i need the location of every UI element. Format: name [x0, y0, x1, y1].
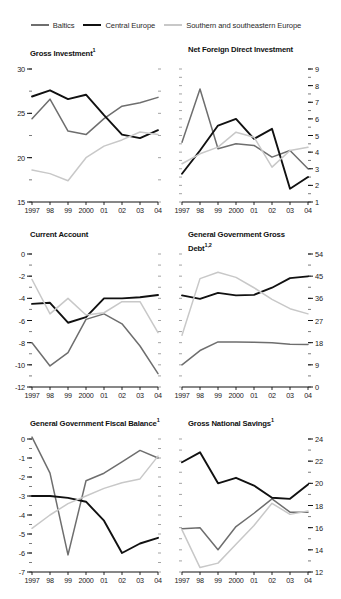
x-axis-tick-label: 03 — [136, 391, 144, 400]
x-axis-tick-label: 01 — [250, 391, 258, 400]
x-axis-tick-label: 03 — [136, 576, 144, 585]
x-axis-tick-label: 98 — [196, 206, 204, 215]
chart-panel-grid: Gross Investment115202530199798992000010… — [0, 42, 341, 599]
y-axis-tick-label: 54 — [315, 250, 323, 259]
y-axis-tick-label: 9 — [315, 65, 319, 74]
y-axis-tick-label: 9 — [315, 360, 319, 369]
y-axis-tick-label: 0 — [6, 250, 25, 259]
y-axis-tick-label: 3 — [315, 164, 319, 173]
legend-item-southern-southeastern-europe: Southern and southeastern Europe — [164, 21, 301, 30]
x-axis-tick-label: 03 — [286, 576, 294, 585]
y-axis-tick-label: -5 — [6, 530, 25, 539]
series-line — [182, 272, 308, 335]
y-axis-tick-label: 0 — [315, 383, 319, 392]
y-axis-tick-label: 25 — [6, 109, 25, 118]
x-axis-tick-label: 99 — [64, 576, 72, 585]
x-axis-tick-label: 2000 — [78, 391, 93, 400]
series-line — [32, 314, 158, 374]
x-axis-tick-label: 99 — [64, 391, 72, 400]
x-axis-tick-label: 98 — [46, 576, 54, 585]
legend-swatch-central-europe — [83, 24, 101, 26]
x-axis-tick-label: 99 — [214, 576, 222, 585]
y-axis-tick-label: -3 — [6, 492, 25, 501]
y-axis-tick-label: -6 — [6, 316, 25, 325]
y-axis-tick-label: 2 — [315, 181, 319, 190]
x-axis-tick-label: 98 — [196, 576, 204, 585]
x-axis-tick-label: 02 — [268, 391, 276, 400]
y-axis-tick-label: 27 — [315, 316, 323, 325]
series-line — [182, 342, 308, 365]
panel-net-foreign-direct-investment: Net Foreign Direct Investment12345678919… — [176, 47, 336, 227]
x-axis-tick-label: 03 — [286, 391, 294, 400]
x-axis-tick-label: 2000 — [228, 576, 243, 585]
x-axis-tick-label: 99 — [214, 206, 222, 215]
x-axis-tick-label: 98 — [46, 391, 54, 400]
y-axis-tick-label: 6 — [315, 114, 319, 123]
panel-plot-area — [6, 232, 166, 412]
x-axis-tick-label: 03 — [286, 206, 294, 215]
x-axis-tick-label: 98 — [46, 206, 54, 215]
x-axis-tick-label: 2000 — [78, 576, 93, 585]
panel-plot-area — [176, 47, 336, 227]
series-line — [32, 279, 158, 332]
y-axis-tick-label: 1 — [315, 198, 319, 207]
y-axis-tick-label: 45 — [315, 272, 323, 281]
y-axis-tick-label: -12 — [6, 383, 25, 392]
legend-swatch-southern-southeastern-europe — [164, 24, 182, 26]
x-axis-tick-label: 04 — [304, 576, 312, 585]
y-axis-tick-label: 20 — [315, 479, 323, 488]
y-axis-tick-label: -1 — [6, 454, 25, 463]
y-axis-tick-label: 18 — [315, 501, 323, 510]
y-axis-tick-label: 18 — [315, 338, 323, 347]
legend-label-baltics: Baltics — [53, 21, 75, 30]
chart-legend: Baltics Central Europe Southern and sout… — [0, 14, 341, 36]
x-axis-tick-label: 2000 — [228, 206, 243, 215]
x-axis-tick-label: 2000 — [78, 206, 93, 215]
panel-gross-national-savings: Gross National Savings112141618202224199… — [176, 417, 336, 597]
y-axis-tick-label: 36 — [315, 294, 323, 303]
panel-plot-area — [176, 232, 336, 412]
panel-plot-area — [6, 47, 166, 227]
x-axis-tick-label: 02 — [118, 576, 126, 585]
y-axis-tick-label: -2 — [6, 272, 25, 281]
legend-swatch-baltics — [31, 24, 49, 26]
x-axis-tick-label: 02 — [118, 206, 126, 215]
x-axis-tick-label: 04 — [304, 206, 312, 215]
x-axis-tick-label: 99 — [214, 391, 222, 400]
y-axis-tick-label: 4 — [315, 148, 319, 157]
panel-plot-area — [176, 417, 336, 597]
y-axis-tick-label: 22 — [315, 457, 323, 466]
series-line — [32, 90, 158, 138]
x-axis-tick-label: 1997 — [24, 206, 39, 215]
y-axis-tick-label: 16 — [315, 523, 323, 532]
series-line — [182, 276, 308, 298]
panel-government-fiscal-balance: General Government Fiscal Balance1-7-6-5… — [6, 417, 166, 597]
y-axis-tick-label: 12 — [315, 568, 323, 577]
x-axis-tick-label: 01 — [100, 576, 108, 585]
legend-label-southern-southeastern-europe: Southern and southeastern Europe — [186, 21, 301, 30]
y-axis-tick-label: -6 — [6, 549, 25, 558]
x-axis-tick-label: 01 — [250, 576, 258, 585]
x-axis-tick-label: 04 — [154, 206, 162, 215]
panel-government-gross-debt: General Government Gross Debt1,209182736… — [176, 232, 336, 412]
y-axis-tick-label: 5 — [315, 131, 319, 140]
x-axis-tick-label: 04 — [304, 391, 312, 400]
y-axis-tick-label: 30 — [6, 65, 25, 74]
x-axis-tick-label: 02 — [268, 576, 276, 585]
series-line — [182, 499, 308, 550]
y-axis-tick-label: -2 — [6, 473, 25, 482]
x-axis-tick-label: 03 — [136, 206, 144, 215]
legend-item-baltics: Baltics — [31, 21, 75, 30]
y-axis-tick-label: -8 — [6, 338, 25, 347]
series-line — [32, 456, 158, 528]
y-axis-tick-label: 0 — [6, 435, 25, 444]
series-line — [32, 97, 158, 134]
y-axis-tick-label: -4 — [6, 294, 25, 303]
series-line — [182, 452, 308, 499]
x-axis-tick-label: 1997 — [174, 576, 189, 585]
x-axis-tick-label: 04 — [154, 576, 162, 585]
series-line — [32, 295, 158, 323]
x-axis-tick-label: 01 — [100, 206, 108, 215]
x-axis-tick-label: 02 — [118, 391, 126, 400]
series-line — [32, 132, 158, 181]
